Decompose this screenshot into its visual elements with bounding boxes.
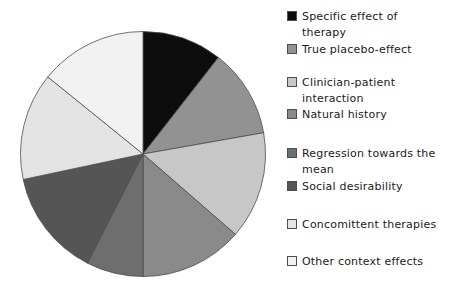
legend-item-6: Social desirability (287, 179, 463, 195)
legend-label: Regression towards themean (302, 146, 435, 178)
legend-item-1: Specific effect oftherapy (287, 9, 463, 41)
legend-item-4: Natural history (287, 107, 463, 123)
pie-chart (0, 0, 280, 288)
legend-swatch-icon (287, 148, 297, 158)
legend-item-8: Other context effects (287, 254, 463, 270)
legend-swatch-icon (287, 44, 297, 54)
legend-item-3: Clinician-patientinteraction (287, 75, 463, 107)
legend-swatch-icon (287, 109, 297, 119)
legend-item-2: True placebo-effect (287, 42, 463, 58)
pie-svg (0, 0, 280, 288)
legend-swatch-icon (287, 219, 297, 229)
legend-label: Clinician-patientinteraction (302, 75, 395, 107)
legend-label: Concomittent therapies (302, 217, 436, 233)
legend-label: True placebo-effect (302, 42, 412, 58)
legend-swatch-icon (287, 181, 297, 191)
chart-legend: Specific effect oftherapyTrue placebo-ef… (287, 9, 463, 270)
legend-label: Other context effects (302, 254, 423, 270)
legend-swatch-icon (287, 11, 297, 21)
legend-label: Social desirability (302, 179, 403, 195)
legend-swatch-icon (287, 256, 297, 266)
legend-swatch-icon (287, 77, 297, 87)
legend-item-5: Regression towards themean (287, 146, 463, 178)
legend-label: Specific effect oftherapy (302, 9, 398, 41)
pie-chart-figure: Specific effect oftherapyTrue placebo-ef… (0, 0, 465, 288)
legend-item-7: Concomittent therapies (287, 217, 463, 233)
legend-label: Natural history (302, 107, 387, 123)
